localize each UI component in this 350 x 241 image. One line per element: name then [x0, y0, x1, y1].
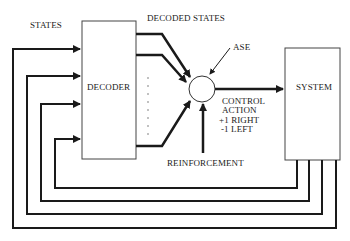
ase-label: ASE	[233, 42, 250, 52]
reinforcement-label: REINFORCEMENT	[167, 158, 244, 168]
feedback-line-3	[41, 104, 309, 201]
feedback-line-2	[27, 76, 322, 214]
system-box	[285, 48, 340, 160]
ase-pointer	[210, 48, 230, 74]
action-label: ACTION	[222, 105, 257, 115]
system-label: SYSTEM	[296, 82, 332, 92]
diagram-canvas	[0, 0, 350, 241]
decoder-label: DECODER	[87, 82, 130, 92]
decoded-state-lines	[136, 34, 190, 146]
ellipsis-dots	[147, 77, 148, 134]
decoded-states-label: DECODED STATES	[147, 13, 225, 23]
left-label: -1 LEFT	[221, 124, 253, 134]
ase-node	[189, 76, 215, 102]
states-label: STATES	[30, 20, 62, 30]
